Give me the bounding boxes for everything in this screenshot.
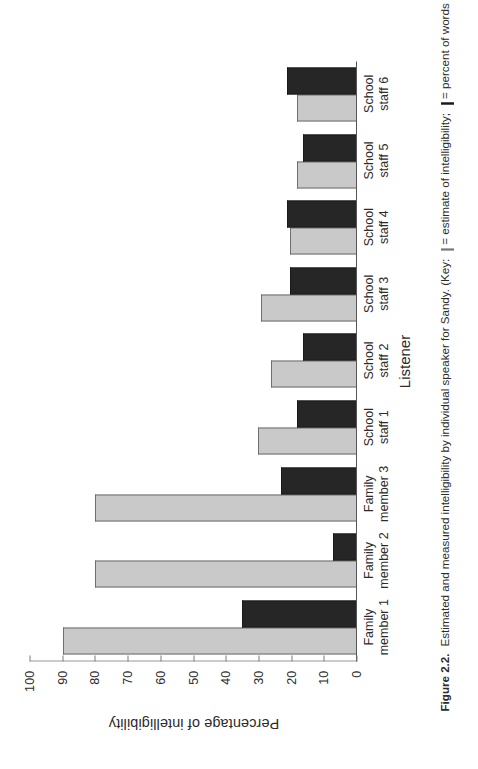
plot-area: 1009080706050403020100 [30,61,357,661]
bar-group [30,261,356,328]
value-axis-tick-label: 100 [23,670,37,691]
figure-number: Figure 2.2. [438,653,452,711]
bar-estimate [261,294,355,321]
bar-measured [290,267,355,294]
bar-measured [333,533,356,560]
value-axis-tick-label: 90 [56,670,70,684]
category-axis-label: Family member 2 [362,527,391,594]
value-axis-tick: 0 [350,661,364,677]
caption-text-part1: Estimated and measured intelligibility b… [438,258,452,646]
bar-measured [303,333,355,360]
value-axis-tick-label: 80 [88,670,102,684]
bar-group [30,194,356,261]
category-axis-label: School staff 6 [362,60,391,127]
value-axis-tick-label: 60 [154,670,168,684]
category-axis-label: Family member 3 [362,460,391,527]
black-square-icon [441,102,454,104]
value-axis-tick-label: 20 [285,670,299,684]
value-axis-title-text: Percentage of intelligibility [108,716,279,732]
value-axis-tick-label: 30 [252,670,266,684]
category-axis-label: School staff 4 [362,193,391,260]
value-axis-title: Percentage of intelligibility [30,715,357,733]
caption-text-part3: = percent of words identified correctly.… [438,0,452,98]
gray-square-icon [441,248,454,250]
value-axis-tick-label: 70 [121,670,135,684]
bar-measured [287,67,355,94]
value-axis-tick: 30 [252,661,266,684]
bar-measured [297,400,356,427]
value-axis-tick: 90 [56,661,70,684]
category-axis-label: School staff 5 [362,127,391,194]
figure-caption: Figure 2.2. Estimated and measured intel… [438,21,452,711]
bar-estimate [95,494,355,521]
category-axis-label: Family member 1 [362,593,391,660]
value-axis-tick: 80 [88,661,102,684]
bar-estimate [63,627,356,654]
value-axis-tick-label: 10 [317,670,331,684]
bar-estimate [290,227,355,254]
bar-group [30,327,356,394]
bar-groups [30,61,356,660]
category-axis-label: School staff 3 [362,260,391,327]
bar-group [30,394,356,461]
value-axis-tick: 10 [317,661,331,684]
bar-estimate [95,560,355,587]
value-axis-tick: 40 [219,661,233,684]
category-axis-label: School staff 1 [362,393,391,460]
value-axis-tick: 20 [285,661,299,684]
bar-measured [281,467,356,494]
bar-group [30,128,356,195]
value-axis-tick: 70 [121,661,135,684]
value-axis-tick: 100 [23,661,37,691]
bar-estimate [297,94,356,121]
category-axis-line [356,61,358,661]
rotated-figure-canvas: Percentage of intelligibility 1009080706… [0,0,478,769]
bar-measured [242,600,356,627]
bar-group [30,460,356,527]
value-axis-tick: 60 [154,661,168,684]
caption-text-part2: = estimate of intelligibility; [438,112,452,244]
figure-2-2: Percentage of intelligibility 1009080706… [0,0,478,769]
bar-measured [287,200,355,227]
value-axis-tick-label: 0 [350,670,364,677]
category-axis-title: Listener [396,61,413,661]
value-axis-tick-label: 50 [187,670,201,684]
tick-mark [357,655,358,661]
bar-estimate [297,161,356,188]
bar-estimate [258,427,356,454]
category-axis-label: School staff 2 [362,327,391,394]
bar-measured [303,134,355,161]
value-axis-tick-label: 40 [219,670,233,684]
bar-group [30,61,356,128]
bar-group [30,593,356,660]
bar-estimate [271,360,356,387]
value-axis-tick: 50 [187,661,201,684]
category-axis-labels: Family member 1Family member 2Family mem… [362,60,391,660]
bar-group [30,527,356,594]
